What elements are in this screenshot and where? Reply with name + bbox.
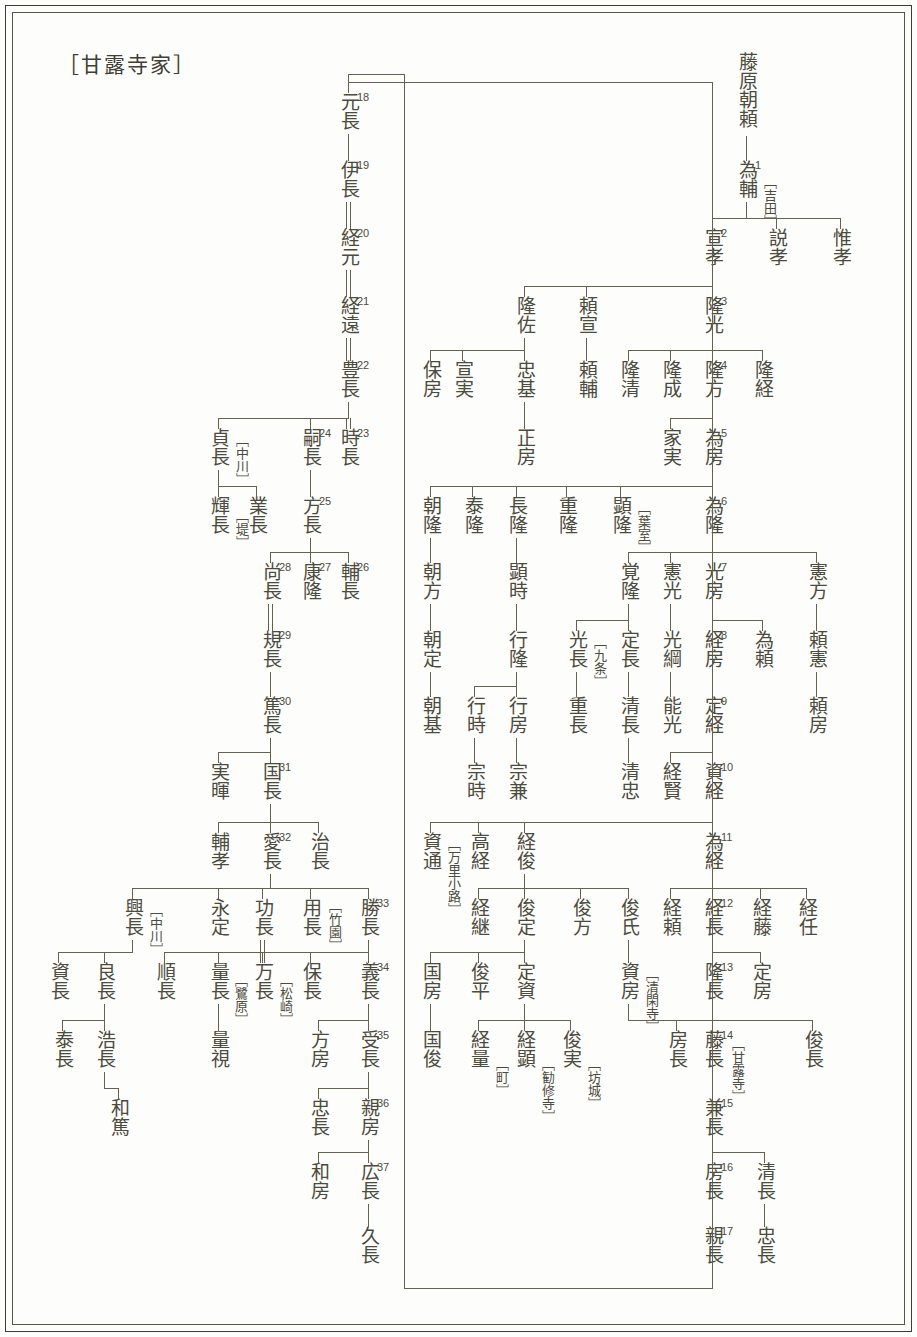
person-node[interactable]: 篤長 [260, 696, 281, 740]
person-node[interactable]: 俊氏 [618, 898, 639, 942]
person-node[interactable]: 為輔 [736, 160, 757, 204]
person-node[interactable]: 清忠 [618, 762, 639, 806]
person-node[interactable]: 受長 [358, 1030, 379, 1074]
person-node[interactable]: 永定 [208, 898, 229, 942]
person-node[interactable]: 愛長 [260, 832, 281, 876]
person-node[interactable]: 俊実 [560, 1030, 581, 1074]
person-node[interactable]: 定長 [618, 630, 639, 674]
person-node[interactable]: 保長 [300, 962, 321, 1006]
person-node[interactable]: 頼輔 [576, 360, 597, 404]
person-node[interactable]: 規長 [260, 630, 281, 674]
person-node[interactable]: 隆成 [660, 360, 681, 404]
person-node[interactable]: 行時 [464, 696, 485, 740]
person-node[interactable]: 重隆 [556, 496, 577, 540]
person-node[interactable]: 時長 [338, 428, 359, 472]
person-node[interactable]: 元長 [338, 92, 359, 136]
person-node[interactable]: 説孝 [766, 228, 787, 272]
person-node[interactable]: 重長 [566, 696, 587, 740]
person-node[interactable]: 良長 [94, 962, 115, 1006]
person-node[interactable]: 国俊 [420, 1030, 441, 1074]
person-node[interactable]: 国房 [420, 962, 441, 1006]
person-node[interactable]: 国長 [260, 762, 281, 806]
person-node[interactable]: 久長 [358, 1226, 379, 1270]
person-node[interactable]: 貞長 [208, 428, 229, 472]
person-node[interactable]: 憲光 [660, 562, 681, 606]
person-node[interactable]: 経継 [468, 898, 489, 942]
person-node[interactable]: 顕時 [506, 562, 527, 606]
person-node[interactable]: 方房 [308, 1030, 329, 1074]
person-node[interactable]: 万長 [252, 962, 273, 1006]
person-node[interactable]: 行房 [506, 696, 527, 740]
person-node[interactable]: 経藤 [750, 898, 771, 942]
person-node[interactable]: 俊方 [570, 898, 591, 942]
person-node[interactable]: 義長 [358, 962, 379, 1006]
person-node[interactable]: 輝長 [208, 496, 229, 540]
person-node[interactable]: 朝方 [420, 562, 441, 606]
person-node[interactable]: 惟孝 [830, 228, 851, 272]
person-node[interactable]: 資通 [420, 832, 441, 876]
person-node[interactable]: 光長 [566, 630, 587, 674]
person-node[interactable]: 定房 [750, 962, 771, 1006]
person-node[interactable]: 康隆 [300, 562, 321, 606]
person-node[interactable]: 資長 [48, 962, 69, 1006]
person-node[interactable]: 能光 [660, 696, 681, 740]
person-node[interactable]: 覚隆 [618, 562, 639, 606]
person-node[interactable]: 忠長 [754, 1226, 775, 1270]
person-node[interactable]: 経俊 [514, 832, 535, 876]
person-node[interactable]: 頼憲 [806, 630, 827, 674]
person-node[interactable]: 定資 [514, 962, 535, 1006]
person-node[interactable]: 尚長 [260, 562, 281, 606]
person-node[interactable]: 興長 [122, 898, 143, 942]
person-node[interactable]: 経元 [338, 228, 359, 272]
person-node[interactable]: 伊長 [338, 160, 359, 204]
person-node[interactable]: 用長 [300, 898, 321, 942]
person-node[interactable]: 頼房 [806, 696, 827, 740]
person-node[interactable]: 正房 [514, 428, 535, 472]
person-node[interactable]: 嗣長 [300, 428, 321, 472]
person-node[interactable]: 憲方 [806, 562, 827, 606]
person-node[interactable]: 経頼 [660, 898, 681, 942]
person-node[interactable]: 藤原朝頼 [736, 52, 757, 138]
person-node[interactable]: 俊平 [468, 962, 489, 1006]
person-node[interactable]: 行隆 [506, 630, 527, 674]
person-node[interactable]: 方長 [300, 496, 321, 540]
person-node[interactable]: 勝長 [358, 898, 379, 942]
person-node[interactable]: 経遠 [338, 296, 359, 340]
person-node[interactable]: 忠長 [308, 1098, 329, 1142]
person-node[interactable]: 為頼 [752, 630, 773, 674]
person-node[interactable]: 宣実 [452, 360, 473, 404]
person-node[interactable]: 清長 [618, 696, 639, 740]
person-node[interactable]: 実暉 [208, 762, 229, 806]
person-node[interactable]: 業長 [246, 496, 267, 540]
person-node[interactable]: 家実 [660, 428, 681, 472]
person-node[interactable]: 和房 [308, 1162, 329, 1206]
person-node[interactable]: 宗時 [464, 762, 485, 806]
person-node[interactable]: 朝隆 [420, 496, 441, 540]
person-node[interactable]: 朝基 [420, 696, 441, 740]
person-node[interactable]: 経賢 [660, 762, 681, 806]
person-node[interactable]: 宗兼 [506, 762, 527, 806]
person-node[interactable]: 資房 [618, 962, 639, 1006]
person-node[interactable]: 和篤 [108, 1098, 129, 1142]
person-node[interactable]: 泰長 [52, 1030, 73, 1074]
person-node[interactable]: 忠基 [514, 360, 535, 404]
person-node[interactable]: 朝定 [420, 630, 441, 674]
person-node[interactable]: 順長 [154, 962, 175, 1006]
person-node[interactable]: 広長 [358, 1162, 379, 1206]
person-node[interactable]: 経顕 [514, 1030, 535, 1074]
person-node[interactable]: 経量 [468, 1030, 489, 1074]
person-node[interactable]: 隆清 [618, 360, 639, 404]
person-node[interactable]: 功長 [252, 898, 273, 942]
person-node[interactable]: 浩長 [94, 1030, 115, 1074]
person-node[interactable]: 輔長 [338, 562, 359, 606]
person-node[interactable]: 俊長 [802, 1030, 823, 1074]
person-node[interactable]: 房長 [666, 1030, 687, 1074]
person-node[interactable]: 隆経 [752, 360, 773, 404]
person-node[interactable]: 隆佐 [514, 296, 535, 340]
person-node[interactable]: 清長 [754, 1162, 775, 1206]
person-node[interactable]: 経任 [796, 898, 817, 942]
person-node[interactable]: 高経 [468, 832, 489, 876]
person-node[interactable]: 頼宣 [576, 296, 597, 340]
person-node[interactable]: 長隆 [506, 496, 527, 540]
person-node[interactable]: 治長 [308, 832, 329, 876]
